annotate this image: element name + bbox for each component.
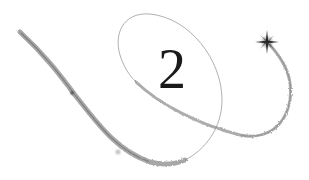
swirl-trail-graphic [0,0,309,180]
numeral-two: 2 [157,44,187,94]
